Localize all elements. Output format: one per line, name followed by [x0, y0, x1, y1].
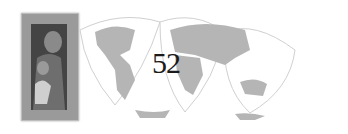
icon-painting: [31, 24, 67, 110]
page-number: 52: [152, 46, 180, 80]
framed-icon-image: [21, 13, 79, 121]
antarctica-landmass: [135, 110, 170, 118]
madonna-figure-icon: [31, 24, 67, 110]
world-map-graphic: [75, 10, 305, 120]
